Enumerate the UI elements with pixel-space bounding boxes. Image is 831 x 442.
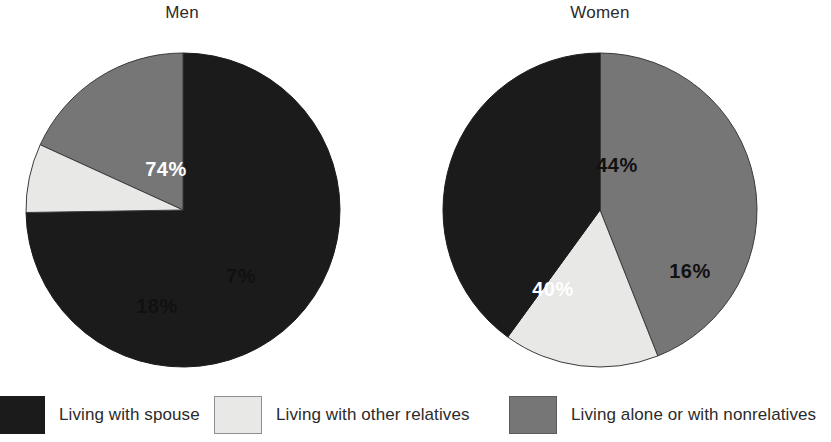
legend-item-living-alone-or-with-nonrelatives: Living alone or with nonrelatives <box>509 395 816 435</box>
legend-swatch-light-icon <box>214 396 262 434</box>
pie-title-men: Men <box>92 3 272 23</box>
legend-swatch-dark-icon <box>0 396 45 434</box>
legend: Living with spouse Living with other rel… <box>0 393 831 442</box>
figure-canvas: Men Women 74% 18% 7% 4 <box>0 0 831 442</box>
pie-men-label-alone: 18% <box>136 295 178 317</box>
legend-item-living-with-other-relatives: Living with other relatives <box>214 395 470 435</box>
pie-women-label-alone: 44% <box>596 154 638 176</box>
pie-men-svg: 74% 18% 7% <box>24 51 342 369</box>
pie-women-label-other-relatives: 16% <box>669 260 711 282</box>
pie-men-label-spouse: 74% <box>145 158 187 180</box>
legend-label-living-with-other-relatives: Living with other relatives <box>276 405 470 425</box>
pie-title-women: Women <box>510 3 690 23</box>
legend-swatch-gray-icon <box>509 396 557 434</box>
pie-women-label-spouse: 40% <box>532 278 574 300</box>
pie-chart-women: 44% 16% 40% <box>441 51 759 369</box>
legend-label-living-with-spouse: Living with spouse <box>59 405 200 425</box>
legend-item-living-with-spouse: Living with spouse <box>0 395 200 435</box>
pie-men-label-other-relatives: 7% <box>226 265 256 287</box>
pie-chart-men: 74% 18% 7% <box>24 51 342 369</box>
legend-label-living-alone-or-with-nonrelatives: Living alone or with nonrelatives <box>571 405 816 425</box>
pie-women-svg: 44% 16% 40% <box>441 51 759 369</box>
